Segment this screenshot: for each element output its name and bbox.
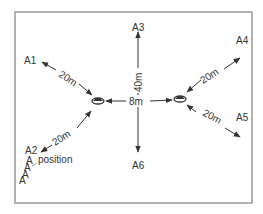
arrow-a2: 20m [41, 111, 91, 152]
position-label-a6: A6 [132, 160, 145, 171]
position-legend: A A A A position [19, 154, 72, 186]
position-label-a4: A4 [236, 35, 249, 46]
position-label-a1: A1 [24, 55, 37, 66]
arrow-a5: 20m [187, 105, 240, 137]
legend-glyph: A [19, 175, 26, 186]
left-loudspeaker-icon [92, 98, 104, 104]
distance-label-a4: 20m [198, 66, 220, 86]
arrow-horizontal: 8m [106, 96, 172, 107]
distance-label-vertical: 40m [133, 73, 144, 92]
position-label-a3: A3 [132, 22, 145, 33]
arrow-a3: 40m [133, 32, 144, 95]
right-loudspeaker-icon [174, 96, 186, 102]
position-label-a5: A5 [236, 112, 249, 123]
legend-label: position [38, 154, 72, 165]
speaker-layout-diagram: 20m 20m 40m 8m 20m 20m A1 A2 A3 A4 A5 A6 [0, 0, 263, 214]
arrow-a4: 20m [187, 58, 240, 92]
arrow-a1: 20m [42, 62, 92, 95]
distance-label-a2: 20m [50, 128, 72, 148]
distance-label-a5: 20m [201, 107, 223, 126]
distance-label-a1: 20m [57, 68, 79, 88]
distance-label-horizontal: 8m [129, 96, 143, 107]
diagram-frame [15, 12, 252, 203]
